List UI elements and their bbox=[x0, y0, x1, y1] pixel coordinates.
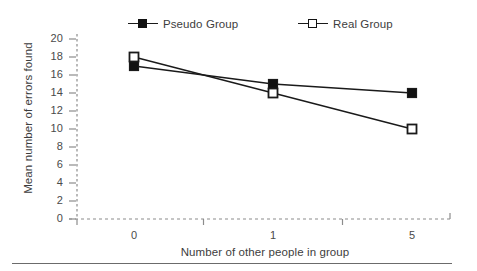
y-axis-tick-label: 0 bbox=[37, 212, 63, 224]
x-axis-tick-label: 1 bbox=[258, 229, 288, 241]
x-axis-tick-label: 0 bbox=[119, 229, 149, 241]
y-axis-tick-label: 20 bbox=[37, 32, 63, 44]
x-axis-tick-label: 5 bbox=[397, 229, 427, 241]
x-axis-title: Number of other people in group bbox=[75, 246, 455, 258]
y-axis-title: Mean number of errors found bbox=[22, 18, 34, 218]
data-series bbox=[130, 53, 417, 134]
plot-area: 02468101214161820 015 Mean number of err… bbox=[0, 0, 477, 271]
data-point-marker bbox=[269, 80, 278, 89]
bottom-divider bbox=[12, 263, 452, 264]
y-axis-tick-label: 6 bbox=[37, 158, 63, 170]
figure-line-chart: Pseudo Group Real Group 0246810121416182… bbox=[0, 0, 477, 271]
y-axis-tick-label: 2 bbox=[37, 194, 63, 206]
y-axis-tick-label: 10 bbox=[37, 122, 63, 134]
y-axis-tick-label: 18 bbox=[37, 50, 63, 62]
data-point-marker bbox=[269, 89, 278, 98]
y-axis-tick-label: 12 bbox=[37, 104, 63, 116]
data-point-marker bbox=[130, 53, 139, 62]
axes bbox=[69, 34, 450, 225]
data-point-marker bbox=[408, 89, 417, 98]
data-point-marker bbox=[408, 125, 417, 134]
data-point-marker bbox=[130, 62, 139, 71]
y-axis-tick-label: 16 bbox=[37, 68, 63, 80]
y-axis-tick-label: 4 bbox=[37, 176, 63, 188]
y-axis-tick-label: 8 bbox=[37, 140, 63, 152]
y-axis-tick-label: 14 bbox=[37, 86, 63, 98]
